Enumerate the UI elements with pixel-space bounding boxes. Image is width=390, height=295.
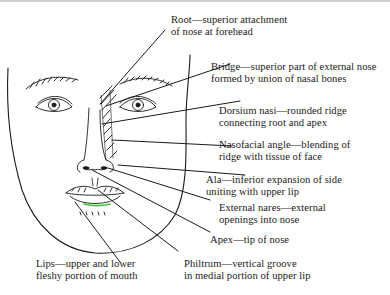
label-apex: Apex—tip of nose	[210, 234, 289, 246]
label-ala: Ala—inferior expansion of side uniting w…	[206, 174, 342, 198]
label-nasofacial-angle: Nasofacial angle—blending of ridge with …	[219, 139, 350, 163]
label-lips: Lips—upper and lower fleshy portion of m…	[36, 258, 138, 282]
label-dorsum-nasi: Dorsium nasi—rounded ridge connecting ro…	[219, 105, 347, 129]
lower-lip-highlight	[84, 204, 110, 206]
nose	[77, 86, 117, 172]
eyes	[36, 96, 156, 111]
eyebrows	[26, 76, 172, 89]
label-bridge: Bridge—superior part of external nose fo…	[211, 61, 376, 85]
label-philtrum: Philtrum—vertical groove in medial porti…	[184, 258, 311, 282]
lips	[66, 186, 124, 215]
label-external-nares: External nares—external openings into no…	[219, 202, 326, 226]
label-root: Root—superior attachment of nose at fore…	[171, 14, 287, 38]
face-outline	[8, 55, 190, 253]
philtrum	[92, 178, 98, 186]
